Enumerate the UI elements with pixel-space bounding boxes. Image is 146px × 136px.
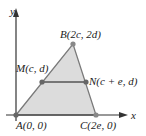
label-a: A(0, 0) bbox=[15, 119, 47, 132]
y-axis-label: y bbox=[9, 5, 15, 17]
triangle-abc bbox=[16, 44, 96, 115]
label-b: B(2c, 2d) bbox=[60, 28, 101, 41]
point-b bbox=[70, 41, 75, 46]
point-m bbox=[39, 79, 44, 84]
x-axis-arrow-icon bbox=[119, 112, 128, 118]
point-n bbox=[83, 79, 88, 84]
label-c: C(2e, 0) bbox=[80, 119, 116, 132]
point-c bbox=[93, 112, 98, 117]
label-n: N(c + e, d) bbox=[88, 75, 138, 88]
point-a bbox=[13, 112, 18, 117]
triangle-midsegment-diagram: y x B(2c, 2d) M(c, d) N(c + e, d) A(0, 0… bbox=[0, 0, 146, 136]
label-m: M(c, d) bbox=[15, 62, 49, 75]
x-axis-label: x bbox=[130, 109, 136, 121]
